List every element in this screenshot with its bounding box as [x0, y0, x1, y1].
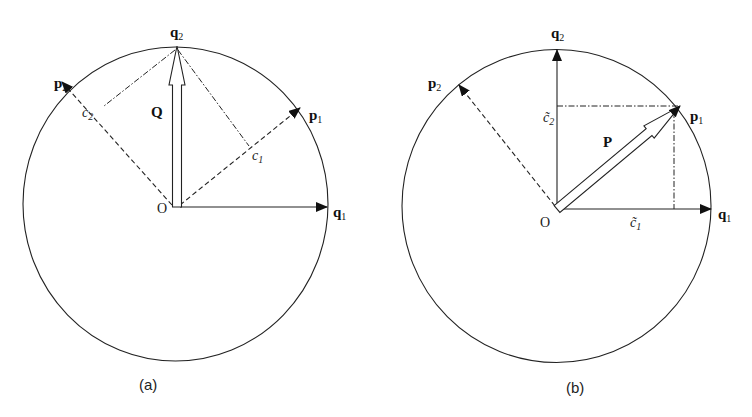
panel-a: O Q q2 q1 p1 p2 c2 c1 (a) [23, 24, 346, 393]
main-vector-label-Q: Q [151, 104, 163, 120]
figure-canvas: O Q q2 q1 p1 p2 c2 c1 (a) O P q2 q1 p1 p… [0, 0, 752, 417]
label-p1-a: p1 [309, 107, 322, 125]
vector-Q-hollow-arrow [169, 46, 185, 207]
vector-P-hollow-arrow [552, 100, 685, 215]
label-p2-a: p2 [54, 75, 67, 93]
label-q2-a: q2 [170, 24, 183, 42]
label-q2-b: q2 [551, 25, 564, 43]
label-c2-tilde-b: c̃2 [543, 110, 554, 127]
main-vector-label-P: P [603, 134, 612, 150]
label-c1-a: c1 [252, 148, 263, 165]
projection-line-c1-a [178, 50, 249, 146]
label-c2-a: c2 [82, 105, 93, 122]
caption-b: (b) [566, 379, 584, 396]
caption-a: (a) [139, 376, 157, 393]
label-q1-a: q1 [333, 204, 346, 222]
vector-p1-a [180, 108, 300, 205]
label-c1-tilde-b: c̃1 [630, 215, 641, 232]
panel-b: O P q2 q1 p1 p2 c̃2 c̃1 (b) [402, 25, 731, 396]
projection-line-c2-a [104, 50, 175, 106]
label-p2-b: p2 [428, 75, 441, 93]
label-p1-b: p1 [690, 108, 703, 126]
origin-label-b: O [540, 215, 550, 230]
label-q1-b: q1 [718, 206, 731, 224]
vector-p2-a [62, 82, 172, 205]
origin-label-a: O [157, 201, 167, 216]
vector-p2-b [459, 85, 555, 206]
